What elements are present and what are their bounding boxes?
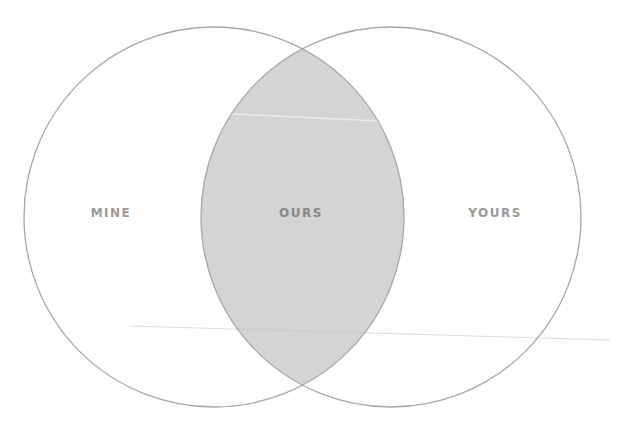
label-mine: MINE — [91, 206, 132, 220]
intersection-region — [201, 27, 581, 407]
label-ours: OURS — [279, 206, 323, 220]
label-yours: YOURS — [468, 206, 522, 220]
